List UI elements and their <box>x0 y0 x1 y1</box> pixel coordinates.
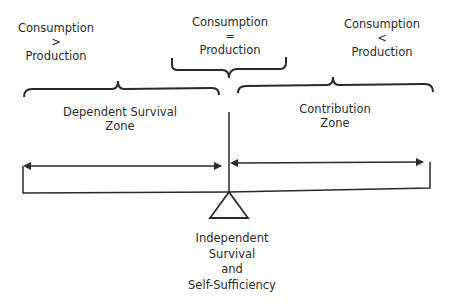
label-line: Contribution <box>280 102 390 116</box>
label-line: Consumption <box>180 15 280 29</box>
label-consumption-greater: Consumption > Production <box>8 21 104 63</box>
label-line: Consumption <box>8 21 104 35</box>
right-zone-arrow <box>238 162 423 163</box>
label-line: Dependent Survival <box>60 105 180 119</box>
label-line: Survival <box>177 247 287 263</box>
label-line: Production <box>334 45 430 59</box>
label-line: Production <box>8 49 104 63</box>
left-arrowhead-icon <box>23 162 31 170</box>
label-line: Production <box>180 43 280 57</box>
label-dependent-survival-zone: Dependent Survival Zone <box>60 105 180 133</box>
center-balance-brace <box>172 57 286 78</box>
label-contribution-zone: Contribution Zone <box>280 102 390 130</box>
label-consumption-less: Consumption < Production <box>334 17 430 59</box>
label-line: and <box>177 262 287 278</box>
center-right-arrowhead-icon <box>230 159 238 167</box>
less-than-symbol: < <box>334 31 430 45</box>
greater-than-symbol: > <box>8 35 104 49</box>
label-line: Self-Sufficiency <box>177 278 287 294</box>
right-zone-brace <box>238 77 433 93</box>
left-zone-brace <box>24 81 219 97</box>
label-line: Independent <box>177 231 287 247</box>
fulcrum-triangle-icon <box>210 192 248 218</box>
label-line: Zone <box>60 119 180 133</box>
label-line: Consumption <box>334 17 430 31</box>
label-line: Zone <box>280 116 390 130</box>
label-consumption-equal: Consumption = Production <box>180 15 280 57</box>
label-independent-survival: Independent Survival and Self-Sufficienc… <box>177 231 287 293</box>
equals-symbol: = <box>180 29 280 43</box>
